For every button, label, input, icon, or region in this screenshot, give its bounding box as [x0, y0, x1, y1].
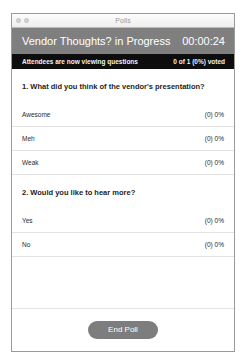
- poll-status-bar: Attendees are now viewing questions 0 of…: [12, 54, 234, 69]
- poll-footer: End Poll: [12, 308, 234, 351]
- option-row[interactable]: Meh (0) 0%: [12, 127, 234, 151]
- option-result: (0) 0%: [205, 240, 224, 249]
- option-label: Weak: [22, 158, 39, 167]
- option-label: No: [22, 240, 30, 249]
- question-text: 2. Would you like to hear more?: [12, 175, 234, 209]
- end-poll-button[interactable]: End Poll: [88, 321, 158, 339]
- question-text: 1. What did you think of the vendor's pr…: [12, 69, 234, 103]
- polls-window: Polls Vendor Thoughts? in Progress 00:00…: [11, 13, 235, 352]
- option-result: (0) 0%: [205, 134, 224, 143]
- option-result: (0) 0%: [205, 110, 224, 119]
- option-label: Meh: [22, 134, 35, 143]
- poll-questions-area: 1. What did you think of the vendor's pr…: [12, 69, 234, 308]
- window-titlebar: Polls: [12, 14, 234, 28]
- option-result: (0) 0%: [205, 216, 224, 225]
- question-block: 1. What did you think of the vendor's pr…: [12, 69, 234, 175]
- option-row[interactable]: Yes (0) 0%: [12, 209, 234, 233]
- option-row[interactable]: No (0) 0%: [12, 233, 234, 257]
- option-row[interactable]: Weak (0) 0%: [12, 151, 234, 175]
- option-result: (0) 0%: [205, 158, 224, 167]
- poll-title: Vendor Thoughts? in Progress: [22, 35, 170, 48]
- option-label: Awesome: [22, 110, 50, 119]
- question-block: 2. Would you like to hear more? Yes (0) …: [12, 175, 234, 257]
- window-title: Polls: [12, 16, 234, 26]
- status-message: Attendees are now viewing questions: [22, 57, 138, 66]
- poll-header: Vendor Thoughts? in Progress 00:00:24: [12, 28, 234, 54]
- option-row[interactable]: Awesome (0) 0%: [12, 103, 234, 127]
- poll-timer: 00:00:24: [182, 35, 225, 48]
- option-label: Yes: [22, 216, 33, 225]
- voted-summary: 0 of 1 (0%) voted: [173, 57, 225, 66]
